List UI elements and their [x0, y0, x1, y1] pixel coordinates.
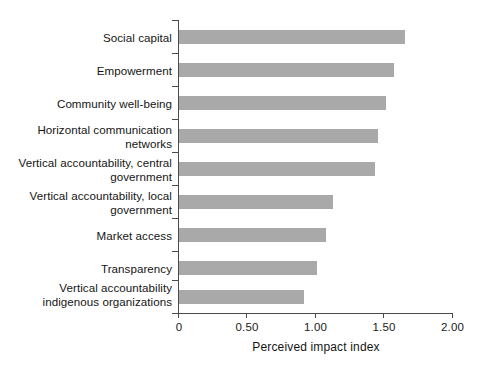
plot-area: Social capital Empowerment Community wel…	[0, 0, 483, 367]
y-axis-tick	[172, 53, 178, 54]
bar	[179, 195, 333, 209]
x-axis-tick-label: 1.50	[373, 321, 396, 333]
bar	[179, 261, 317, 275]
category-label: Vertical accountability, local governmen…	[0, 189, 172, 216]
y-axis-tick	[172, 119, 178, 120]
bar	[179, 129, 378, 143]
x-axis-tick-label: 2.00	[441, 321, 464, 333]
category-label: Community well-being	[0, 97, 172, 111]
category-label: Vertical accountability indigenous organ…	[0, 281, 172, 308]
y-axis-tick	[172, 86, 178, 87]
x-axis-tick	[315, 313, 316, 318]
y-axis-tick	[172, 251, 178, 252]
y-axis-tick	[172, 280, 178, 281]
category-label: Social capital	[0, 31, 172, 45]
x-axis-tick-label: 0	[176, 321, 183, 333]
x-axis-tick	[452, 313, 453, 318]
y-axis-tick	[172, 20, 178, 21]
bar	[179, 63, 394, 77]
x-axis-tick	[246, 313, 247, 318]
category-label: Market access	[0, 229, 172, 243]
x-axis-tick	[178, 313, 179, 318]
bar	[179, 96, 386, 110]
y-axis-tick	[172, 152, 178, 153]
bar	[179, 290, 304, 304]
category-label: Empowerment	[0, 64, 172, 78]
x-axis-tick-label: 1.00	[304, 321, 327, 333]
y-axis-tick	[172, 185, 178, 186]
category-label: Horizontal communication networks	[0, 123, 172, 150]
x-axis-tick-label: 0.50	[236, 321, 259, 333]
category-label: Vertical accountability, central governm…	[0, 156, 172, 183]
x-axis-title: Perceived impact index	[179, 340, 453, 354]
x-axis-tick	[383, 313, 384, 318]
y-axis-tick	[172, 218, 178, 219]
bar	[179, 228, 326, 242]
bar	[179, 30, 405, 44]
bar-chart-figure: Social capital Empowerment Community wel…	[0, 0, 483, 367]
category-label: Transparency	[0, 262, 172, 276]
bar	[179, 162, 375, 176]
